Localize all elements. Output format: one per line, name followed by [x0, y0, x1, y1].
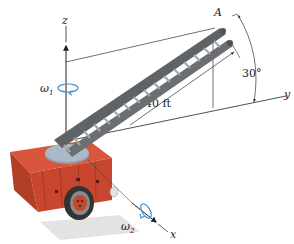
omega1-label: ω1	[40, 82, 53, 97]
omega1-rotation-icon	[58, 84, 78, 95]
ladder	[54, 28, 233, 157]
omega2-label: ω2	[121, 220, 135, 235]
wheel	[64, 186, 94, 220]
x-axis-label: x	[170, 228, 177, 241]
angle-label: 30°	[242, 67, 262, 80]
y-axis-label: y	[283, 88, 291, 101]
angle-30-dimension	[232, 14, 256, 102]
point-a-label: A	[213, 6, 222, 19]
z-axis-label: z	[61, 14, 68, 27]
ladder-diagram: z ω1 y 30° 40 ft	[0, 0, 294, 244]
omega2-rotation-icon	[139, 202, 154, 220]
